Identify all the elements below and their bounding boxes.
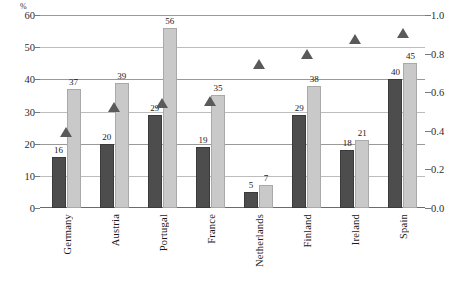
y-axis-tick-mark bbox=[35, 79, 40, 80]
bar-group: 2956 bbox=[148, 15, 177, 208]
chart-figure: % 01020304050600.00.20.40.60.81.01637203… bbox=[0, 0, 470, 283]
bar-group: 57 bbox=[244, 15, 273, 208]
triangle-marker bbox=[60, 127, 72, 137]
triangle-marker bbox=[397, 28, 409, 38]
x-axis-category-label: Portugal bbox=[158, 214, 169, 251]
bar-dark bbox=[244, 192, 258, 208]
y-axis-tick-label: 40 bbox=[25, 74, 36, 85]
triangle-marker bbox=[349, 34, 361, 44]
bar-light bbox=[403, 63, 417, 208]
bar-value-label-light: 56 bbox=[157, 17, 183, 26]
bar-value-label-light: 39 bbox=[109, 72, 135, 81]
x-axis-category-label: France bbox=[206, 214, 217, 244]
secondary-y-axis-tick-label: 0.8 bbox=[431, 48, 444, 59]
x-axis-category-label: Austria bbox=[110, 214, 121, 246]
y-axis-tick-label: 60 bbox=[25, 10, 36, 21]
bar-light bbox=[163, 28, 177, 208]
triangle-marker bbox=[301, 49, 313, 59]
bar-value-label-dark: 18 bbox=[334, 139, 360, 148]
bar-value-label-light: 37 bbox=[61, 78, 87, 87]
bar-group: 1935 bbox=[196, 15, 225, 208]
y-axis-tick-mark bbox=[35, 208, 40, 209]
x-axis-category-label: Finland bbox=[302, 214, 313, 248]
bar-group: 2938 bbox=[292, 15, 321, 208]
bar-group: 2039 bbox=[100, 15, 129, 208]
secondary-y-axis-tick-label: 0.0 bbox=[431, 203, 444, 214]
bar-dark bbox=[196, 147, 210, 208]
bar-value-label-dark: 16 bbox=[46, 146, 72, 155]
y-axis-tick-label: 0 bbox=[30, 203, 35, 214]
x-axis-category-label: Netherlands bbox=[254, 214, 265, 267]
y-axis-tick-mark bbox=[35, 15, 40, 16]
bar-light bbox=[211, 95, 225, 208]
bar-value-label-light: 7 bbox=[253, 174, 279, 183]
bar-value-label-light: 21 bbox=[349, 129, 375, 138]
y-axis-tick-mark bbox=[35, 176, 40, 177]
triangle-marker bbox=[108, 102, 120, 112]
bar-group: 4045 bbox=[388, 15, 417, 208]
secondary-y-axis-tick-label: 0.2 bbox=[431, 164, 444, 175]
bar-group: 1637 bbox=[52, 15, 81, 208]
y-axis-tick-label: 20 bbox=[25, 138, 36, 149]
y-axis-tick-mark bbox=[35, 112, 40, 113]
y-axis-tick-label: 50 bbox=[25, 42, 36, 53]
bar-value-label-light: 38 bbox=[301, 75, 327, 84]
secondary-y-axis-tick-label: 1.0 bbox=[431, 10, 444, 21]
secondary-y-axis-tick-label: 0.4 bbox=[431, 125, 444, 136]
secondary-y-axis-tick-label: 0.6 bbox=[431, 87, 444, 98]
y-axis-tick-label: 10 bbox=[25, 170, 36, 181]
bar-dark bbox=[148, 115, 162, 208]
bar-value-label-light: 35 bbox=[205, 84, 231, 93]
bar-dark bbox=[292, 115, 306, 208]
y-axis-tick-label: 30 bbox=[25, 106, 36, 117]
bar-value-label-dark: 29 bbox=[286, 104, 312, 113]
bar-light bbox=[355, 140, 369, 208]
bar-value-label-light: 45 bbox=[397, 52, 423, 61]
bar-dark bbox=[340, 150, 354, 208]
bar-value-label-dark: 19 bbox=[190, 136, 216, 145]
triangle-marker bbox=[156, 98, 168, 108]
plot-area: 01020304050600.00.20.40.60.81.0163720392… bbox=[40, 15, 425, 208]
bar-dark bbox=[388, 79, 402, 208]
triangle-marker bbox=[253, 59, 265, 69]
y-axis-tick-mark bbox=[35, 47, 40, 48]
x-axis-category-label: Spain bbox=[398, 214, 409, 239]
triangle-marker bbox=[204, 96, 216, 106]
bar-value-label-dark: 40 bbox=[382, 68, 408, 77]
bar-dark bbox=[52, 157, 66, 208]
bar-dark bbox=[100, 144, 114, 208]
bar-group: 1821 bbox=[340, 15, 369, 208]
x-axis-category-label: Ireland bbox=[350, 214, 361, 245]
y-axis-tick-mark bbox=[35, 144, 40, 145]
bar-value-label-dark: 20 bbox=[94, 133, 120, 142]
x-axis-category-label: Germany bbox=[62, 214, 73, 254]
